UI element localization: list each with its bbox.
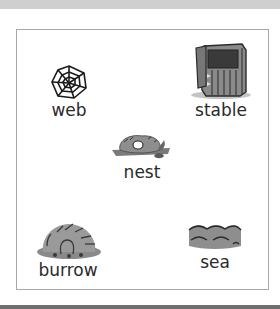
bottom-bar [0,305,280,309]
nest-icon [110,132,174,162]
item-stable: stable [181,40,261,120]
item-sea: sea [177,222,253,272]
item-web: web [39,64,99,120]
label-sea: sea [177,252,253,272]
label-stable: stable [181,100,261,120]
spider-web-icon [49,64,89,100]
sea-waves-icon [187,222,243,252]
burrow-icon [35,218,101,260]
label-web: web [39,100,99,120]
stable-icon [190,40,252,100]
top-bar [0,0,280,9]
word-picture-card: web stable [16,29,269,290]
label-nest: nest [104,162,180,182]
item-nest: nest [104,132,180,182]
label-burrow: burrow [25,260,111,280]
item-burrow: burrow [25,218,111,280]
